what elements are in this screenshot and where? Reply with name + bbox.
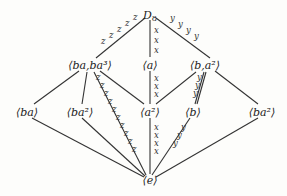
node-ba2_right: ⟨ba²⟩ <box>249 106 276 119</box>
edge-label-y: y <box>192 88 198 98</box>
edge-label-y: y <box>177 19 183 29</box>
edge-label-x: x <box>154 45 159 55</box>
lattice-edge <box>156 72 196 104</box>
node-e: ⟨e⟩ <box>142 174 157 187</box>
lattice-edge <box>156 118 258 177</box>
node-b: ⟨b⟩ <box>185 106 201 119</box>
lattice-edge <box>156 18 210 58</box>
edge-label-x: x <box>154 146 159 156</box>
edge-label-z: z <box>116 24 122 34</box>
lattice-diagram: zzzzzxxxyyyyxxxyyyzzzzzzzzzzxxxxyyy D8⟨b… <box>0 0 287 196</box>
lattice-canvas: zzzzzxxxyyyyxxxyyyzzzzzzzzzzxxxxyyy D8⟨b… <box>0 0 287 196</box>
edge-label-y: y <box>185 25 191 35</box>
edge-label-y: y <box>169 13 175 23</box>
edge-label-y: y <box>172 138 178 148</box>
edge-label-z: z <box>132 12 138 22</box>
node-D8: D8 <box>142 9 157 23</box>
edge-label-z: z <box>100 36 106 46</box>
lattice-edge <box>215 71 258 104</box>
edge-label-y: y <box>193 31 199 41</box>
node-a2: ⟨a²⟩ <box>140 106 160 119</box>
node-ba: ⟨ba⟩ <box>16 106 38 119</box>
edge-label-x: x <box>154 25 159 35</box>
edge-label-x: x <box>154 89 159 99</box>
edge-label-z: z <box>131 144 137 154</box>
lattice-edge <box>34 71 79 104</box>
lattice-edge <box>32 118 144 177</box>
edge-label-z: z <box>108 30 114 40</box>
node-a: ⟨a⟩ <box>142 59 157 72</box>
node-ba_ba3: ⟨ba,ba³⟩ <box>68 59 112 72</box>
node-ba2_left: ⟨ba²⟩ <box>67 106 94 119</box>
edges-layer <box>32 18 258 177</box>
lattice-edge <box>82 72 87 104</box>
edge-labels-layer: zzzzzxxxyyyyxxxyyyzzzzzzzzzzxxxxyyy <box>95 12 202 156</box>
edge-label-x: x <box>154 35 159 45</box>
nodes-layer: D8⟨ba,ba³⟩⟨a⟩⟨b,a²⟩⟨ba⟩⟨ba²⟩⟨a²⟩⟨b⟩⟨ba²⟩… <box>16 9 275 187</box>
edge-label-z: z <box>124 18 130 28</box>
node-b_a2: ⟨b,a²⟩ <box>190 59 220 72</box>
